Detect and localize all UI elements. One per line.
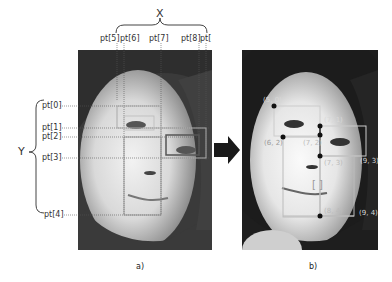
coord-label: (5, 0): [263, 97, 282, 104]
grid-overlay-b: [0, 0, 392, 282]
coord-label: (7, 1): [324, 117, 343, 124]
coord-label: (7, 3): [324, 160, 343, 167]
coord-label: (6, 2): [264, 140, 283, 147]
coord-label: (9, 3): [360, 158, 379, 165]
coord-label: (9, 4): [359, 210, 378, 217]
coord-label: (7, 2): [303, 140, 322, 147]
caption-b: b): [309, 262, 317, 271]
center-mark: [ ]: [312, 180, 323, 190]
coord-label: (8, 4): [324, 208, 343, 215]
